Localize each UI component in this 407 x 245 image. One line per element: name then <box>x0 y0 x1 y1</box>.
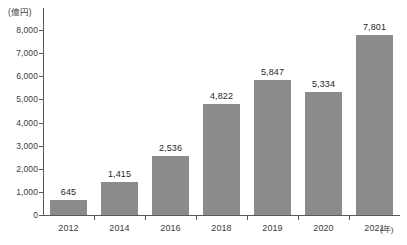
x-axis-label: 2012 <box>43 223 94 233</box>
bar <box>356 35 393 215</box>
x-axis-tick <box>298 216 299 220</box>
x-axis-line <box>43 215 400 216</box>
bar-group: 7,801 <box>356 0 393 215</box>
bar <box>101 182 138 215</box>
x-axis-label: 2019 <box>247 223 298 233</box>
x-axis-tick <box>247 216 248 220</box>
bar-value-label: 1,415 <box>101 169 138 179</box>
bar-group: 5,334 <box>305 0 342 215</box>
y-axis-tick <box>39 215 44 216</box>
bar-group: 4,822 <box>203 0 240 215</box>
bar <box>305 92 342 215</box>
bar <box>50 200 87 215</box>
x-axis-label: 2016 <box>145 223 196 233</box>
x-axis-unit-label: (年) <box>380 223 393 234</box>
x-axis-tick <box>145 216 146 220</box>
x-axis-label: 2014 <box>94 223 145 233</box>
bars-layer: 6451,4152,5364,8225,8475,3347,801 <box>0 0 407 215</box>
x-axis-label: 2020 <box>298 223 349 233</box>
bar-group: 2,536 <box>152 0 189 215</box>
x-axis-tick <box>196 216 197 220</box>
bar-value-label: 4,822 <box>203 91 240 101</box>
bar-value-label: 7,801 <box>356 22 393 32</box>
bar <box>152 156 189 215</box>
bar-chart: (億円) 01,0002,0003,0004,0005,0006,0007,00… <box>0 0 407 245</box>
bar-value-label: 2,536 <box>152 143 189 153</box>
bar-group: 645 <box>50 0 87 215</box>
bar-group: 5,847 <box>254 0 291 215</box>
bar-value-label: 5,334 <box>305 79 342 89</box>
x-axis-label: 2018 <box>196 223 247 233</box>
bar-group: 1,415 <box>101 0 138 215</box>
bar <box>254 80 291 215</box>
bar-value-label: 645 <box>50 187 87 197</box>
bar-value-label: 5,847 <box>254 67 291 77</box>
x-axis-tick <box>349 216 350 220</box>
bar <box>203 104 240 216</box>
x-axis-tick <box>94 216 95 220</box>
